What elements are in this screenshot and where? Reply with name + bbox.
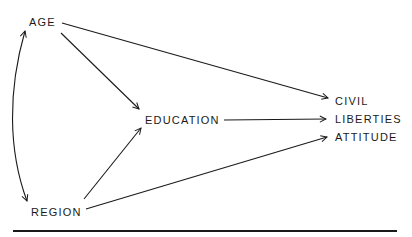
edge-region-to-education	[84, 128, 141, 199]
node-attitude-line-2: LIBERTIES	[335, 113, 402, 125]
node-age: AGE	[29, 16, 56, 28]
edge-age-to-attitude	[62, 23, 328, 98]
edge-region-to-attitude	[86, 137, 327, 209]
edge-age-to-education	[61, 33, 139, 109]
bottom-rule	[13, 230, 397, 232]
node-education: EDUCATION	[145, 114, 220, 126]
node-attitude-line-1: CIVIL	[335, 95, 369, 107]
edge-age-region-correlation	[12, 31, 27, 201]
node-region: REGION	[31, 206, 82, 218]
edge-education-to-attitude	[224, 119, 326, 120]
node-attitude-line-3: ATTITUDE	[335, 131, 398, 143]
